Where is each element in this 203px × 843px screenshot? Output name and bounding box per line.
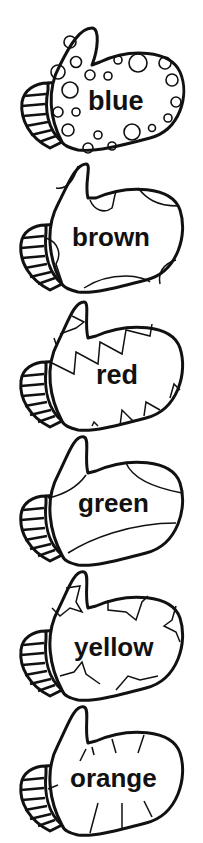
mitten-label-brown: brown [72,224,150,250]
mitten-label-orange: orange [70,765,157,791]
mitten-label-yellow: yellow [74,634,153,660]
mitten-blue: blue [0,20,203,160]
mitten-brown: brown [0,158,203,298]
mitten-red: red [0,298,203,438]
mitten-yellow: yellow [0,570,203,710]
mitten-label-green: green [78,490,149,516]
mitten-label-red: red [96,362,138,389]
mitten-green: green [0,435,203,575]
mitten-label-blue: blue [88,88,144,115]
mitten-orange: orange [0,705,203,843]
